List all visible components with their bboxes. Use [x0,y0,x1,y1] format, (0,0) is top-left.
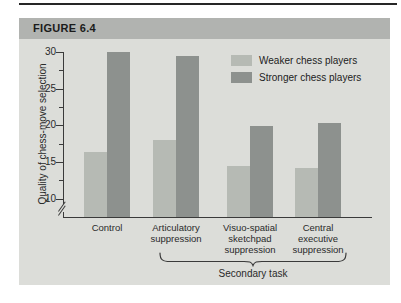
legend: Weaker chess players Stronger chess play… [231,54,361,88]
y-minor-tick [59,107,63,108]
secondary-task-label: Secondary task [158,268,348,279]
figure: FIGURE 6.4 Quality of chess-move selecti… [0,0,401,303]
y-tick-label: 15 [34,156,56,168]
x-axis-line [63,217,372,218]
legend-item-stronger: Stronger chess players [231,71,361,83]
bar-weaker [153,140,176,217]
bar-stronger [318,123,341,217]
y-tick-label: 30 [34,46,56,58]
legend-swatch-stronger [231,72,252,83]
x-category-label: Articulatory suppression [150,222,201,244]
y-tick [56,199,63,200]
y-minor-tick [59,180,63,181]
y-tick [56,162,63,163]
y-minor-tick [59,144,63,145]
y-tick-label: 20 [34,119,56,131]
figure-header: FIGURE 6.4 [19,18,390,39]
x-category-label: Visuo-spatial sketchpad suppression [223,222,277,255]
y-tick-label: 10 [34,193,56,205]
secondary-task-bracket-icon [158,252,348,267]
y-tick [56,125,63,126]
figure-label: FIGURE 6.4 [19,18,390,39]
bar-weaker [84,152,107,217]
bar-stronger [250,126,273,217]
y-minor-tick [59,70,63,71]
legend-swatch-weaker [231,55,252,66]
top-rule [19,3,397,5]
bar-weaker [295,168,318,217]
x-category-label: Central executive suppression [292,222,343,255]
bar-stronger [107,52,130,217]
bar-stronger [176,56,199,217]
legend-label-stronger: Stronger chess players [259,72,361,83]
legend-item-weaker: Weaker chess players [231,54,361,66]
y-tick-label: 25 [34,83,56,95]
legend-label-weaker: Weaker chess players [259,55,357,66]
y-tick [56,89,63,90]
bar-weaker [227,166,250,217]
y-tick [56,52,63,53]
x-category-label: Control [92,222,123,233]
y-axis-line-upper [63,52,64,204]
